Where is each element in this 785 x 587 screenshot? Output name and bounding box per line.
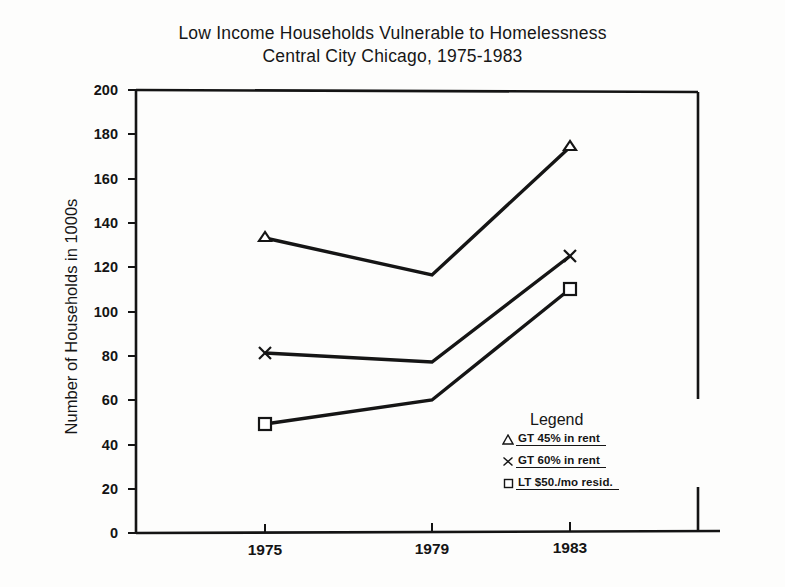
x-axis-line [136, 531, 720, 533]
y-tick-label-40: 40 [58, 438, 118, 452]
cross-marker-icon [500, 455, 516, 468]
legend-item-lt-50: LT $50./mo resid. [500, 476, 705, 493]
legend-title: Legend [530, 411, 705, 429]
legend-label-gt-60: GT 60% in rent [516, 454, 606, 468]
series-line-gt-45 [265, 147, 570, 275]
y-tick-label-120: 120 [58, 260, 118, 274]
y-tick-label-20: 20 [58, 482, 118, 496]
series-gt-45-in-rent [259, 141, 576, 275]
x-tick-label-1983: 1983 [525, 539, 615, 557]
triangle-marker-icon [500, 433, 516, 446]
marker-cross-1983 [564, 250, 576, 262]
y-tick-label-0: 0 [58, 526, 118, 540]
chart-figure: Low Income Households Vulnerable to Home… [0, 0, 785, 587]
y-tick-label-180: 180 [58, 127, 118, 141]
legend-item-gt-60: GT 60% in rent [500, 454, 705, 471]
square-marker-icon [500, 477, 516, 490]
y-tick-label-80: 80 [58, 349, 118, 363]
x-tick-label-1975: 1975 [220, 541, 310, 559]
plot-top-border [136, 90, 698, 92]
marker-triangle-1975 [259, 232, 271, 241]
marker-triangle-1983 [564, 141, 576, 150]
series-gt-60-in-rent [259, 250, 576, 362]
x-tick-label-1979: 1979 [387, 540, 477, 558]
y-tick-label-160: 160 [58, 172, 118, 186]
y-tick-label-100: 100 [58, 305, 118, 319]
y-tick-label-200: 200 [58, 83, 118, 97]
y-tick-label-60: 60 [58, 393, 118, 407]
legend-item-gt-45: GT 45% in rent [500, 432, 705, 449]
chart-legend: Legend GT 45% in rent GT 60% in rent LT … [500, 411, 705, 498]
legend-label-gt-45: GT 45% in rent [516, 432, 606, 446]
y-tick-label-140: 140 [58, 216, 118, 230]
marker-square-1975 [259, 418, 271, 430]
legend-label-lt-50: LT $50./mo resid. [516, 476, 619, 490]
marker-square-1983 [564, 283, 576, 295]
